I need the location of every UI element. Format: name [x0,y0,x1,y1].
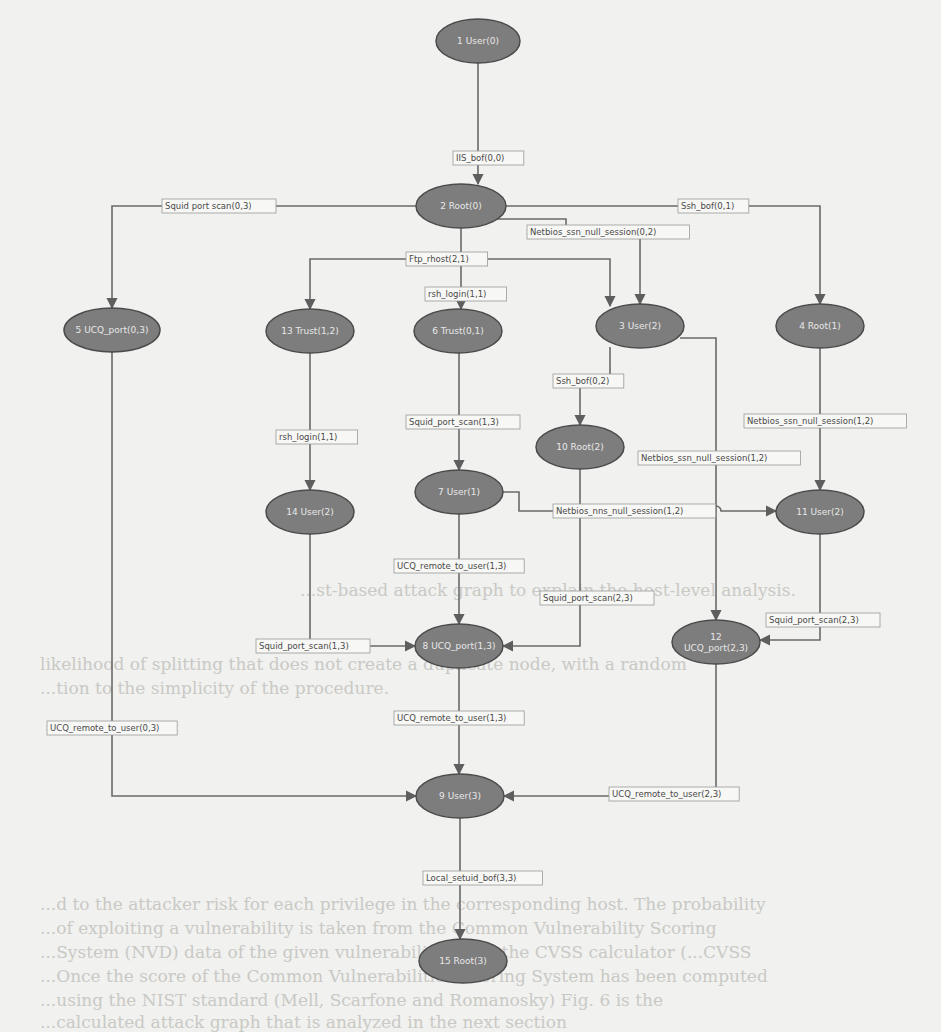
edge-label-text: rsh_login(1,1) [428,289,486,299]
edge-label-text: UCQ_remote_to_user(0,3) [50,723,159,733]
node-label: 10 Root(2) [556,442,603,452]
node-label: 15 Root(3) [439,956,486,966]
graph-node-10: 10 Root(2) [536,425,624,469]
node-label: 7 User(1) [438,487,480,497]
edge-label-text: IIS_bof(0,0) [456,153,504,163]
edge-label-text: Netbios_nns_null_session(1,2) [556,506,683,516]
node-label: 8 UCQ_port(1,3) [423,641,496,651]
node-label: 4 Root(1) [799,321,841,331]
edge-label-text: Local_setuid_bof(3,3) [426,873,516,883]
node-label: 1 User(0) [457,36,499,46]
edge-label-text: Netbios_ssn_null_session(1,2) [747,416,873,426]
edge-label: UCQ_remote_to_user(2,3) [609,787,739,801]
node-label: 14 User(2) [286,507,334,517]
edge-label: rsh_login(1,1) [276,430,358,444]
edge-label: Squid_port_scan(1,3) [256,639,370,653]
graph-node-11: 11 User(2) [776,490,864,534]
edge-3-to-12 [680,338,716,620]
edge-label: UCQ_remote_to_user(0,3) [47,721,177,735]
graph-node-6: 6 Trust(0,1) [414,309,502,353]
edge-label-text: Squid_port_scan(1,3) [409,417,499,427]
node-label: 3 User(2) [619,321,661,331]
edge-label-text: Squid_port_scan(1,3) [259,641,349,651]
node-label: UCQ_port(2,3) [684,643,748,653]
edge-label: Local_setuid_bof(3,3) [423,871,542,885]
edge-label: Ssh_bof(0,2) [553,374,624,388]
edge-14-to-8 [310,534,415,646]
graph-node-15: 15 Root(3) [419,939,507,983]
edge-label: Netbios_nns_null_session(1,2) [553,504,716,518]
edge-label-text: Squid_port_scan(2,3) [769,615,859,625]
graph-node-8: 8 UCQ_port(1,3) [415,624,503,668]
edge-label-text: Netbios_ssn_null_session(0,2) [530,227,656,237]
edge-label: Netbios_ssn_null_session(1,2) [638,451,801,465]
edge-label-text: UCQ_remote_to_user(1,3) [397,561,506,571]
graph-node-13: 13 Trust(1,2) [266,309,354,353]
edge-label: IIS_bof(0,0) [453,151,524,165]
edge-2-to-4 [506,206,820,304]
edge-label-text: rsh_login(1,1) [279,432,337,442]
edge-label-text: Squid_port_scan(2,3) [543,593,633,603]
node-label: 12 [710,632,721,642]
node-label: 13 Trust(1,2) [281,326,338,336]
node-label: 6 Trust(0,1) [432,326,484,336]
graph-node-1: 1 User(0) [436,19,520,63]
edge-2-to-5 [112,206,416,308]
edge-label-text: Netbios_ssn_null_session(1,2) [641,453,767,463]
node-label: 11 User(2) [796,507,844,517]
graph-node-12: 12UCQ_port(2,3) [672,620,760,664]
graph-node-9: 9 User(3) [416,774,504,818]
edge-label-text: Ssh_bof(0,1) [681,201,734,211]
edge-label-text: Squid port scan(0,3) [165,201,252,211]
graph-node-2: 2 Root(0) [416,184,506,228]
edge-label: Ftp_rhost(2,1) [406,252,488,266]
node-label: 5 UCQ_port(0,3) [76,325,149,335]
edge-label: Ssh_bof(0,1) [678,199,749,213]
edge-12-to-9 [504,664,716,796]
edge-label: Netbios_ssn_null_session(0,2) [527,225,690,239]
edge-label: Squid_port_scan(2,3) [766,613,880,627]
edge-label: UCQ_remote_to_user(1,3) [394,559,524,573]
node-label: 2 Root(0) [440,201,482,211]
graph-node-3: 3 User(2) [596,304,684,348]
edge-label: Squid port scan(0,3) [162,199,276,213]
edge-label: Squid_port_scan(2,3) [540,591,654,605]
edge-label: UCQ_remote_to_user(1,3) [394,711,524,725]
edge-label: rsh_login(1,1) [425,287,507,301]
edge-label: Netbios_ssn_null_session(1,2) [744,414,907,428]
edge-label-text: UCQ_remote_to_user(2,3) [612,789,721,799]
node-label: 9 User(3) [439,791,481,801]
graph-node-4: 4 Root(1) [776,304,864,348]
graph-node-5: 5 UCQ_port(0,3) [64,308,160,352]
edge-label-text: Ssh_bof(0,2) [556,376,609,386]
graph-node-7: 7 User(1) [415,470,503,514]
edge-label: Squid_port_scan(1,3) [406,415,520,429]
graph-node-14: 14 User(2) [266,490,354,534]
edge-label-text: Ftp_rhost(2,1) [409,254,469,264]
edge-label-text: UCQ_remote_to_user(1,3) [397,713,506,723]
edge-10-to-8 [503,469,580,646]
